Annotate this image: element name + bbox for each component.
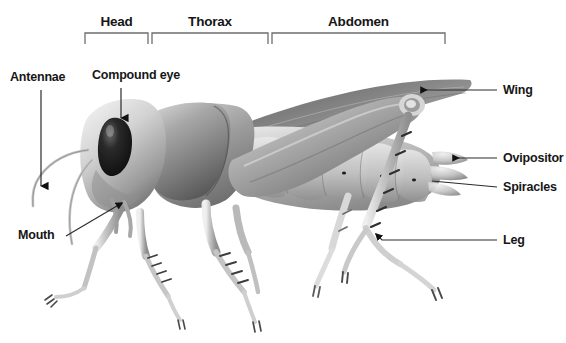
region-label-head: Head bbox=[85, 15, 148, 29]
leader-mouth bbox=[66, 203, 122, 236]
annotation-overlay bbox=[0, 0, 566, 343]
part-label-compound-eye: Compound eye bbox=[92, 69, 180, 82]
part-label-mouth: Mouth bbox=[18, 229, 54, 242]
region-label-abdomen: Abdomen bbox=[272, 15, 445, 29]
part-label-ovipositor: Ovipositor bbox=[503, 152, 564, 165]
part-label-spiracles: Spiracles bbox=[503, 181, 557, 194]
leader-leg bbox=[376, 234, 497, 240]
grasshopper-anatomy-figure: Head Thorax Abdomen Antennae Compound ey… bbox=[0, 0, 566, 343]
region-bracket-thorax bbox=[152, 33, 268, 44]
part-label-wing: Wing bbox=[503, 84, 533, 97]
part-label-antennae: Antennae bbox=[10, 71, 65, 84]
region-label-thorax: Thorax bbox=[152, 15, 268, 29]
region-bracket-abdomen bbox=[272, 33, 445, 44]
leader-spiracles bbox=[432, 181, 497, 187]
region-bracket-head bbox=[85, 33, 148, 44]
part-label-leg: Leg bbox=[503, 234, 525, 247]
